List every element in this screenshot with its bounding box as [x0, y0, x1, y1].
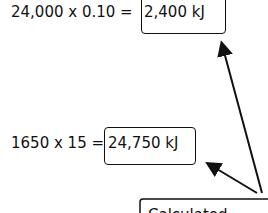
arrow-to-result-2	[212, 166, 257, 193]
arrows	[0, 0, 268, 213]
callout-label: Calculated	[148, 206, 228, 213]
callout-box: Calculated	[138, 201, 268, 213]
arrow-to-result-1	[223, 48, 262, 193]
